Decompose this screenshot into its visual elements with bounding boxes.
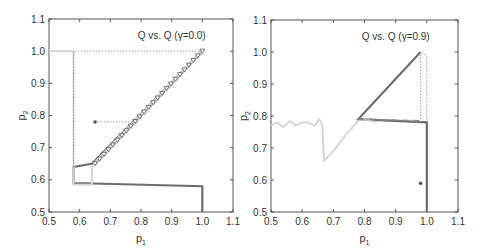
end-point-marker [419, 181, 423, 185]
x-tick-label: 1.0 [195, 216, 209, 227]
plot-2: 0.50.60.70.80.91.01.10.50.60.70.80.91.01… [237, 15, 465, 247]
x-tick-label: 0.5 [42, 216, 56, 227]
x-tick-label: 1.1 [226, 216, 240, 227]
y-tick-label: 0.9 [31, 78, 45, 89]
y-tick-label: 0.9 [253, 79, 267, 90]
y-tick-label: 0.6 [31, 174, 45, 185]
series-trajectory-light-noisy [271, 119, 377, 161]
y-tick-label: 0.5 [253, 207, 267, 218]
x-axis-label: p1 [136, 232, 146, 246]
triangle-marker [93, 162, 98, 166]
y-axis-label: p2 [15, 110, 29, 120]
x-tick-label: 0.6 [295, 216, 309, 227]
plot-title: Q vs. Q (γ=0.9) [362, 31, 430, 42]
series-dotted-guides [421, 52, 427, 122]
x-tick-label: 1.1 [451, 216, 465, 227]
y-tick-label: 1.0 [31, 46, 45, 57]
y-tick-label: 0.8 [31, 110, 45, 121]
x-tick-label: 0.9 [389, 216, 403, 227]
x-tick-label: 0.8 [358, 216, 372, 227]
y-tick-label: 1.0 [253, 47, 267, 58]
y-tick-label: 1.1 [31, 14, 45, 25]
x-tick-label: 0.9 [165, 216, 179, 227]
x-tick-label: 0.7 [326, 216, 340, 227]
x-tick-label: 0.6 [73, 216, 87, 227]
y-axis-label: p2 [237, 111, 251, 121]
y-tick-label: 0.6 [253, 175, 267, 186]
y-tick-label: 1.1 [253, 15, 267, 26]
x-tick-label: 0.7 [103, 216, 117, 227]
x-axis-label: p1 [359, 232, 369, 246]
start-point-marker [93, 120, 97, 124]
plot-frame [271, 20, 458, 212]
x-tick-label: 0.8 [134, 216, 148, 227]
series-trajectory-dark [74, 51, 203, 212]
plot-1: 0.50.60.70.80.91.01.10.50.60.70.80.91.01… [15, 14, 240, 247]
chart-canvas: 0.50.60.70.80.91.01.10.50.60.70.80.91.01… [0, 0, 483, 252]
y-tick-label: 0.7 [31, 142, 45, 153]
x-tick-label: 0.5 [264, 216, 278, 227]
x-tick-label: 1.0 [420, 216, 434, 227]
plot-title: Q vs. Q (γ=0.0) [138, 30, 206, 41]
y-tick-label: 0.7 [253, 143, 267, 154]
series-trajectory-dark [358, 52, 427, 212]
y-tick-label: 0.8 [253, 111, 267, 122]
y-tick-label: 0.5 [31, 207, 45, 218]
